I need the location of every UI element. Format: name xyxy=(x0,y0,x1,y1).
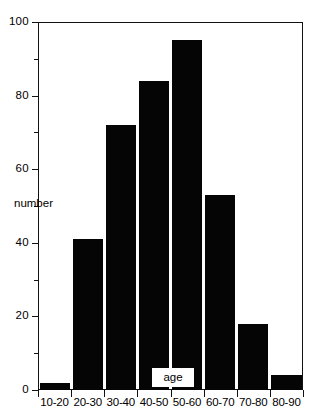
bar-60-70 xyxy=(205,195,235,390)
y-axis-tick-label-80: 80 xyxy=(0,90,29,102)
y-axis-title: number xyxy=(14,197,53,210)
x-axis-tick-label-30-40: 30-40 xyxy=(104,394,137,412)
x-axis-tick-label-50-60: 50-60 xyxy=(171,394,204,412)
histogram-chart: 100 80 60 40 20 0 10-2020-3030-4040-5050… xyxy=(0,0,314,416)
bars-container xyxy=(38,22,303,390)
x-axis-tick-label-20-30: 20-30 xyxy=(71,394,104,412)
y-axis-tick-label-100: 100 xyxy=(0,16,29,28)
y-axis-tick-label-20: 20 xyxy=(0,310,29,322)
bar-40-50 xyxy=(139,81,169,390)
bar-80-90 xyxy=(271,375,301,390)
x-axis-tick-label-10-20: 10-20 xyxy=(38,394,71,412)
y-axis-tick-label-0: 0 xyxy=(0,384,29,396)
x-axis-tick-label-40-50: 40-50 xyxy=(137,394,170,412)
x-axis-tick-label-70-80: 70-80 xyxy=(237,394,270,412)
bar-20-30 xyxy=(73,239,103,390)
y-axis-tick-label-60: 60 xyxy=(0,163,29,175)
bar-70-80 xyxy=(238,324,268,390)
bar-30-40 xyxy=(106,125,136,390)
x-axis-title: age xyxy=(152,368,194,387)
bar-10-20 xyxy=(40,383,70,390)
bar-50-60 xyxy=(172,40,202,390)
x-axis-tick-label-60-70: 60-70 xyxy=(204,394,237,412)
x-axis-tick-8 xyxy=(303,390,304,397)
y-axis-tick-label-40: 40 xyxy=(0,237,29,249)
x-axis-tick-label-80-90: 80-90 xyxy=(270,394,303,412)
x-axis-tick-labels: 10-2020-3030-4040-5050-6060-7070-8080-90 xyxy=(38,394,303,412)
